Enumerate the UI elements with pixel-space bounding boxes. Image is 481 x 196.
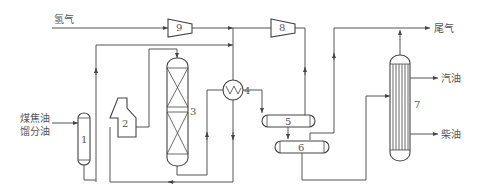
hydrogen-label: 氢气 xyxy=(54,13,74,25)
vessel-1-label: 1 xyxy=(81,134,87,145)
compressor-8-label: 8 xyxy=(279,22,285,33)
reactor-3-label: 3 xyxy=(190,106,196,117)
process-flow-diagram: 9 8 1 2 3 4 5 xyxy=(0,0,481,196)
furnace-2-label: 2 xyxy=(122,118,128,129)
separator6-to-column-line xyxy=(302,96,390,180)
furnace-2: 2 xyxy=(110,98,136,137)
column-7-label: 7 xyxy=(414,99,420,110)
feed-label-line1: 煤焦油 xyxy=(20,112,50,124)
compressor-9: 9 xyxy=(168,19,192,37)
separator-5: 5 xyxy=(262,115,315,127)
heat-exchanger-4: 4 xyxy=(223,80,250,100)
reactor-3: 3 xyxy=(167,58,196,166)
diesel-label: 柴油 xyxy=(441,128,461,140)
feed-vessel-1: 1 xyxy=(78,113,90,165)
fractionation-column-7: 7 xyxy=(390,55,420,161)
separator-6-label: 6 xyxy=(298,142,304,153)
gasoline-label: 汽油 xyxy=(441,72,461,84)
heat-exchanger-4-label: 4 xyxy=(244,85,250,96)
compressor-9-label: 9 xyxy=(176,22,182,33)
feed-label-line2: 馏分油 xyxy=(20,125,50,137)
vessel1-outlet-line xyxy=(84,165,96,180)
separator-6: 6 xyxy=(275,141,329,153)
separator-5-label: 5 xyxy=(285,116,291,127)
compressor-8: 8 xyxy=(271,19,295,37)
tail-gas-label: 尾气 xyxy=(434,22,454,34)
stream-lines xyxy=(52,28,438,182)
